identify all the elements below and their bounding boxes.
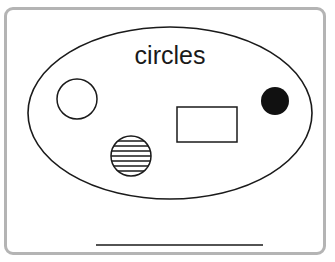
set-label: circles <box>135 41 206 69</box>
open-circle-shape <box>57 79 97 119</box>
striped-circle-shape <box>110 136 152 176</box>
rectangle-shape <box>177 107 237 142</box>
venn-diagram: circles <box>0 0 335 262</box>
solid-circle-shape <box>261 87 289 115</box>
